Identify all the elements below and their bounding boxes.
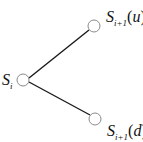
label-root: Si xyxy=(2,72,13,91)
label-down: Si+1(d) xyxy=(107,123,143,142)
label-up: Si+1(u) xyxy=(106,9,143,28)
edge-up xyxy=(29,30,89,78)
node-down xyxy=(89,113,101,125)
node-root xyxy=(17,74,29,86)
node-up xyxy=(88,20,100,32)
binomial-tree-diagram: Si Si+1(u) Si+1(d) xyxy=(0,0,143,142)
edge-down xyxy=(29,82,90,115)
